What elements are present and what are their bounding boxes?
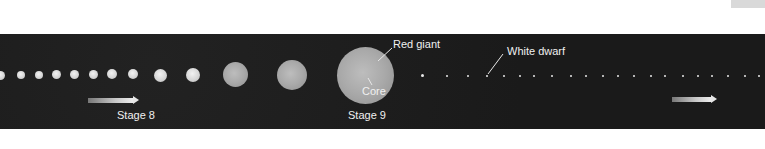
label-stage-8: Stage 8 xyxy=(117,109,155,121)
label-red-giant: Red giant xyxy=(393,38,440,50)
arrow-stage-8 xyxy=(88,98,134,103)
label-stage-9: Stage 9 xyxy=(348,109,386,121)
label-core: Core xyxy=(362,85,386,97)
label-white-dwarf: White dwarf xyxy=(507,45,565,57)
leader-lines xyxy=(0,0,765,149)
arrow-stage-10 xyxy=(672,97,712,102)
